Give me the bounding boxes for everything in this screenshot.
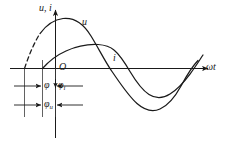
- phi-u-subscript: u: [50, 103, 53, 110]
- x-axis-label: ωt: [206, 62, 216, 72]
- voltage-curve-dashed-extension: [25, 34, 41, 69]
- axis-group: [10, 10, 208, 138]
- voltage-curve-label: u: [82, 17, 87, 27]
- phi-label: φ: [44, 80, 50, 90]
- phi-u-label: φu: [44, 99, 53, 109]
- phi-i-label: φi: [58, 80, 65, 90]
- sinusoid-phase-plot: [0, 0, 229, 145]
- phi-i-subscript: i: [64, 84, 66, 91]
- current-curve-label: i: [113, 53, 116, 63]
- origin-label: O: [59, 62, 66, 72]
- phi-i-base: φ: [58, 79, 64, 90]
- phi-u-base: φ: [44, 98, 50, 109]
- y-axis-label: u, i: [39, 3, 52, 13]
- phase-diagram-figure: u, i ωt u i O φ φi φu: [0, 0, 229, 145]
